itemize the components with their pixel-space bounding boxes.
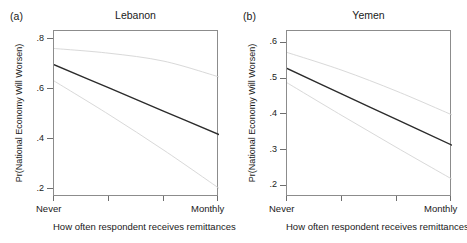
y-axis-title: Pr(National Economy Will Worsen) — [247, 30, 261, 196]
x-axis-tick — [163, 196, 164, 201]
confidence-interval-line — [54, 81, 219, 188]
plot-area — [54, 31, 219, 197]
y-axis-tick — [280, 42, 286, 43]
y-axis-tick — [280, 78, 286, 79]
x-axis-title: How often respondent receives remittance… — [53, 221, 218, 232]
y-axis-tick-label: .4 — [36, 134, 44, 143]
x-axis-tick — [341, 196, 342, 201]
x-axis-tick — [450, 196, 451, 201]
y-axis-tick — [280, 113, 286, 114]
panel-letter: (a) — [10, 10, 23, 22]
y-axis-tick — [47, 138, 53, 139]
x-axis-tick — [217, 196, 218, 201]
y-axis-tick-label: .8 — [36, 34, 44, 43]
y-axis-tick — [280, 185, 286, 186]
panel-yemen: (b) Yemen Pr(National Economy Will Worse… — [233, 0, 466, 243]
panel-lebanon: (a) Lebanon Pr(National Economy Will Wor… — [0, 0, 233, 243]
confidence-interval-line — [54, 48, 219, 76]
y-axis-tick — [280, 149, 286, 150]
y-axis-tick — [47, 38, 53, 39]
x-axis-tick — [108, 196, 109, 201]
x-category-never: Never — [269, 203, 294, 214]
y-axis-tick — [47, 188, 53, 189]
y-axis-tick-label: .2 — [269, 180, 277, 189]
x-axis-title: How often respondent receives remittance… — [286, 221, 451, 232]
series-group — [287, 52, 452, 179]
panel-title: Yemen — [286, 9, 451, 21]
y-axis-tick-label: .6 — [269, 37, 277, 46]
x-category-monthly: Monthly — [191, 203, 224, 214]
y-axis-tick-label: .4 — [269, 109, 277, 118]
x-category-never: Never — [36, 203, 61, 214]
y-axis-tick-label: .5 — [269, 73, 277, 82]
plot-area — [287, 31, 452, 197]
y-axis-tick-label: .6 — [36, 84, 44, 93]
x-axis-tick — [53, 196, 54, 201]
y-axis-tick — [47, 88, 53, 89]
confidence-interval-line — [287, 52, 452, 114]
panel-letter: (b) — [243, 10, 256, 22]
y-axis-tick-label: .3 — [269, 145, 277, 154]
fitted-line — [54, 65, 219, 135]
series-group — [54, 48, 219, 188]
plot-frame — [53, 30, 218, 196]
x-axis-tick — [396, 196, 397, 201]
figure-root: (a) Lebanon Pr(National Economy Will Wor… — [0, 0, 467, 243]
y-axis-tick-label: .2 — [36, 184, 44, 193]
x-axis-tick — [286, 196, 287, 201]
x-category-monthly: Monthly — [424, 203, 457, 214]
confidence-interval-line — [287, 83, 452, 179]
panel-title: Lebanon — [53, 9, 218, 21]
y-axis-title: Pr(National Economy Will Worsen) — [14, 30, 28, 196]
plot-frame — [286, 30, 451, 196]
